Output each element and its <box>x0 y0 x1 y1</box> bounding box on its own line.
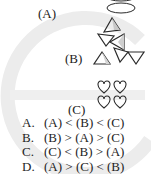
heart-icon <box>114 96 126 108</box>
ellipse-icon <box>107 3 135 13</box>
option-a[interactable]: A. (A) < (B) < (C) <box>22 116 124 131</box>
figure-b-label: (B) <box>65 52 82 66</box>
figure-a-ellipses <box>96 0 146 16</box>
option-key: B. <box>22 131 44 146</box>
triangle-icon <box>98 34 114 46</box>
heart-icon <box>98 96 110 108</box>
triangle-icon <box>128 52 144 64</box>
option-d[interactable]: D. (A) > (C) < (B) <box>22 160 124 175</box>
option-b[interactable]: B. (B) > (A) > (C) <box>22 131 124 146</box>
option-c[interactable]: C. (C) < (B) > (A) <box>22 145 124 160</box>
heart-icon <box>114 81 126 93</box>
triangle-icon <box>114 48 128 62</box>
figure-a-label: (A) <box>38 7 56 21</box>
heart-icon <box>98 81 110 93</box>
figure-c-hearts <box>94 80 134 110</box>
option-key: D. <box>22 160 44 175</box>
option-text: (A) > (C) < (B) <box>44 160 124 175</box>
option-text: (C) < (B) > (A) <box>44 145 124 160</box>
ellipse-icon <box>107 0 135 1</box>
option-key: A. <box>22 116 44 131</box>
figure-b-triangles <box>90 16 150 66</box>
option-key: C. <box>22 145 44 160</box>
answer-options: A. (A) < (B) < (C) B. (B) > (A) > (C) C.… <box>22 116 124 174</box>
option-text: (A) < (B) < (C) <box>44 116 124 131</box>
option-text: (B) > (A) > (C) <box>44 131 124 146</box>
